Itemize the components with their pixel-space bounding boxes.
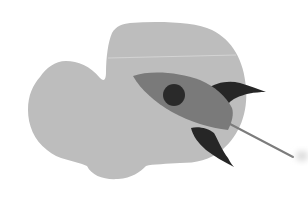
illustration-canvas [0,0,308,215]
rocket-trail-line [230,124,293,157]
trail-smudge [296,151,308,161]
rocket-illustration [0,0,308,215]
rocket-porthole [163,84,185,106]
